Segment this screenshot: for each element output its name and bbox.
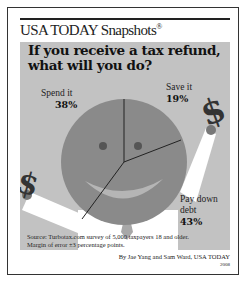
brand-title: USA TODAY Snapshots®	[20, 22, 162, 39]
byline: By Jae Yang and Sam Ward, USA TODAY 2008	[119, 253, 230, 269]
label-save: Save it 19%	[166, 82, 192, 105]
left-eye	[99, 142, 107, 150]
source-note: Source: Turbotax.com survey of 5,000 tax…	[27, 233, 227, 249]
header-rule	[20, 18, 230, 20]
right-eye	[134, 142, 142, 150]
headline: If you receive a tax refund, what will y…	[28, 43, 220, 73]
label-debt: Pay down debt 43%	[180, 194, 218, 228]
chart-panel: $ $ If you receive a tax refund, what wi…	[20, 42, 230, 250]
dollar-right-icon: $	[195, 88, 230, 134]
label-spend: Spend it 38%	[41, 88, 77, 111]
